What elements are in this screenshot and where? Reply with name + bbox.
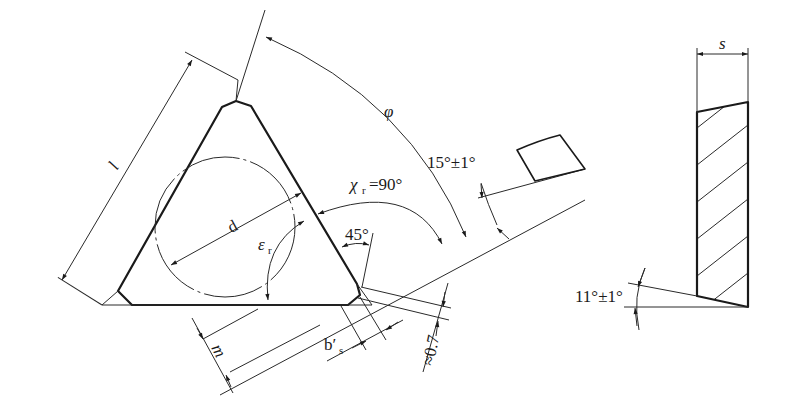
m-label: m — [207, 341, 230, 361]
insert-outline — [118, 101, 360, 305]
section-hatch — [697, 88, 748, 350]
offset-label: ≈0.7 — [418, 333, 443, 367]
offset-ext-upper — [361, 287, 451, 308]
inscribed-circle — [155, 157, 295, 297]
clearance-arrow-top — [638, 268, 645, 287]
bs-symbol: b′ — [324, 335, 336, 354]
epsilon-sub: r — [268, 244, 272, 256]
phi-arc — [266, 37, 466, 237]
phi-label: φ — [384, 102, 393, 121]
insert-drawing: l d ε r φ χ r =90° 45° 15°±1° — [0, 0, 785, 417]
plan-view: l d ε r φ χ r =90° 45° 15°±1° — [58, 10, 585, 395]
m-arrow-top — [197, 328, 203, 339]
chi-value: =90° — [369, 175, 402, 194]
chamfer-angle-label: 45° — [345, 225, 369, 244]
l-ext-lower — [58, 277, 102, 305]
chi-arc — [318, 202, 442, 244]
s-label: s — [719, 34, 726, 53]
corner-extension — [102, 291, 118, 305]
epsilon-arc — [267, 221, 304, 300]
chi-symbol: χ — [348, 175, 358, 194]
clearance-arc — [637, 268, 645, 330]
l-ext-upper — [185, 52, 238, 80]
l-dimension-line — [62, 60, 192, 280]
rake-angle-label: 15°±1° — [427, 153, 475, 172]
chi-sub: r — [362, 184, 366, 196]
l-label: l — [104, 159, 123, 173]
rake-arrow-bottom — [497, 228, 509, 239]
rake-angle-arc — [481, 183, 497, 225]
bs-sub: s — [339, 344, 343, 356]
holder-stub — [517, 135, 585, 181]
epsilon-symbol: ε — [258, 235, 265, 254]
bs-arrow-right — [386, 322, 398, 330]
m-ext-upper — [203, 309, 258, 339]
clearance-angle-label: 11°±1° — [575, 287, 623, 306]
cutting-reference-line — [220, 200, 585, 395]
section-view: s 11°±1° — [575, 34, 748, 350]
phi-ext-line — [236, 10, 265, 101]
